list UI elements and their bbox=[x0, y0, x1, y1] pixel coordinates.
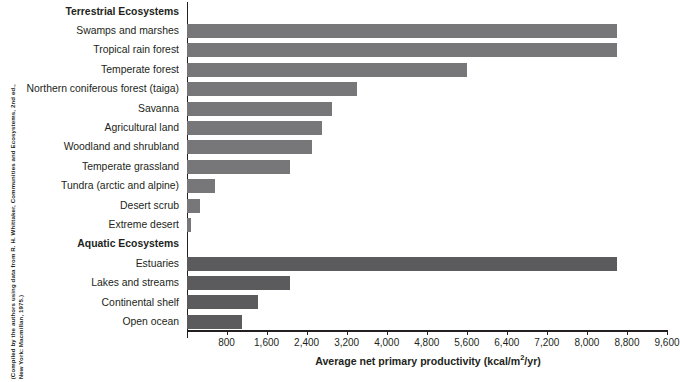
bar-row: Savanna bbox=[0, 99, 670, 118]
bar-track bbox=[186, 41, 670, 60]
bar-track bbox=[186, 177, 670, 196]
axis-tick bbox=[347, 330, 348, 335]
x-axis-title-tail: /yr) bbox=[524, 355, 541, 367]
axis-tick bbox=[307, 330, 308, 335]
bar bbox=[187, 218, 191, 232]
axis-tick-label: 1,600 bbox=[254, 337, 279, 348]
bar-track bbox=[186, 157, 670, 176]
bar-row: Northern coniferous forest (taiga) bbox=[0, 80, 670, 99]
bar-row: Woodland and shrubland bbox=[0, 138, 670, 157]
bar-row: Open ocean bbox=[0, 312, 670, 331]
bar-category-label: Estuaries bbox=[0, 258, 186, 270]
axis-tick bbox=[267, 330, 268, 335]
bar-row: Temperate grassland bbox=[0, 157, 670, 176]
bar bbox=[187, 160, 290, 174]
bar-row: Tundra (arctic and alpine) bbox=[0, 177, 670, 196]
bar-category-label: Temperate forest bbox=[0, 64, 186, 76]
bar-category-label: Northern coniferous forest (taiga) bbox=[0, 83, 186, 95]
bar-track bbox=[186, 2, 670, 21]
axis-tick-label: 6,400 bbox=[494, 337, 519, 348]
bar-row: Estuaries bbox=[0, 254, 670, 273]
axis-tick bbox=[467, 330, 468, 335]
axis-tick-label: 4,800 bbox=[414, 337, 439, 348]
bar-track bbox=[186, 80, 670, 99]
bar-row: Desert scrub bbox=[0, 196, 670, 215]
bar-row: Swamps and marshes bbox=[0, 21, 670, 40]
bar bbox=[187, 257, 617, 271]
bar-track bbox=[186, 60, 670, 79]
axis-tick bbox=[387, 330, 388, 335]
axis-tick bbox=[427, 330, 428, 335]
bar-track bbox=[186, 273, 670, 292]
bar-category-label: Open ocean bbox=[0, 316, 186, 328]
bar-category-label: Swamps and marshes bbox=[0, 25, 186, 37]
axis-tick-label: 3,200 bbox=[334, 337, 359, 348]
bar-row: Extreme desert bbox=[0, 215, 670, 234]
bar bbox=[187, 121, 322, 135]
axis-tick-label: 9,600 bbox=[654, 337, 679, 348]
bar bbox=[187, 140, 312, 154]
bar-category-label: Lakes and streams bbox=[0, 277, 186, 289]
bar bbox=[187, 63, 467, 77]
bar bbox=[187, 82, 357, 96]
bar bbox=[187, 295, 258, 309]
x-axis-title: Average net primary productivity (kcal/m… bbox=[186, 355, 670, 367]
bar-category-label: Agricultural land bbox=[0, 122, 186, 134]
bar-track bbox=[186, 138, 670, 157]
bar-category-label: Continental shelf bbox=[0, 297, 186, 309]
bar-category-label: Tundra (arctic and alpine) bbox=[0, 180, 186, 192]
axis-tick-label: 4,000 bbox=[374, 337, 399, 348]
bar-row: Lakes and streams bbox=[0, 273, 670, 292]
bar bbox=[187, 315, 242, 329]
bar-row: Tropical rain forest bbox=[0, 41, 670, 60]
axis-tick bbox=[187, 330, 188, 335]
group-header-row: Aquatic Ecosystems bbox=[0, 235, 670, 254]
axis-tick bbox=[547, 330, 548, 335]
bar-category-label: Tropical rain forest bbox=[0, 44, 186, 56]
axis-tick-label: 7,200 bbox=[534, 337, 559, 348]
axis-tick bbox=[627, 330, 628, 335]
bar-category-label: Temperate grassland bbox=[0, 161, 186, 173]
bar-track bbox=[186, 21, 670, 40]
bar-category-label: Extreme desert bbox=[0, 219, 186, 231]
bar-row: Temperate forest bbox=[0, 60, 670, 79]
bar-category-label: Desert scrub bbox=[0, 200, 186, 212]
bar bbox=[187, 199, 200, 213]
bar bbox=[187, 276, 290, 290]
axis-tick-label: 2,400 bbox=[294, 337, 319, 348]
axis-tick bbox=[587, 330, 588, 335]
bar-track bbox=[186, 99, 670, 118]
group-header-label: Aquatic Ecosystems bbox=[0, 238, 186, 250]
group-header-label: Terrestrial Ecosystems bbox=[0, 6, 186, 18]
axis-tick bbox=[507, 330, 508, 335]
axis-tick-label: 8,800 bbox=[614, 337, 639, 348]
bar-row: Agricultural land bbox=[0, 118, 670, 137]
bar-track bbox=[186, 293, 670, 312]
bar-track bbox=[186, 215, 670, 234]
x-axis-title-main: Average net primary productivity (kcal/m bbox=[315, 355, 520, 367]
bar-category-label: Woodland and shrubland bbox=[0, 141, 186, 153]
chart-rows: Terrestrial EcosystemsSwamps and marshes… bbox=[0, 2, 670, 332]
bar bbox=[187, 179, 215, 193]
bar bbox=[187, 43, 617, 57]
bar-row: Continental shelf bbox=[0, 293, 670, 312]
bar-track bbox=[186, 312, 670, 331]
axis-tick bbox=[227, 330, 228, 335]
bar-track bbox=[186, 254, 670, 273]
bar-category-label: Savanna bbox=[0, 103, 186, 115]
axis-tick bbox=[667, 330, 668, 335]
bar-track bbox=[186, 118, 670, 137]
bar bbox=[187, 24, 617, 38]
axis-tick-label: 5,600 bbox=[454, 337, 479, 348]
group-header-row: Terrestrial Ecosystems bbox=[0, 2, 670, 21]
bar-track bbox=[186, 235, 670, 254]
bar-track bbox=[186, 196, 670, 215]
axis-tick-label: 800 bbox=[218, 337, 235, 348]
axis-tick-label: 8,000 bbox=[574, 337, 599, 348]
bar bbox=[187, 102, 332, 116]
